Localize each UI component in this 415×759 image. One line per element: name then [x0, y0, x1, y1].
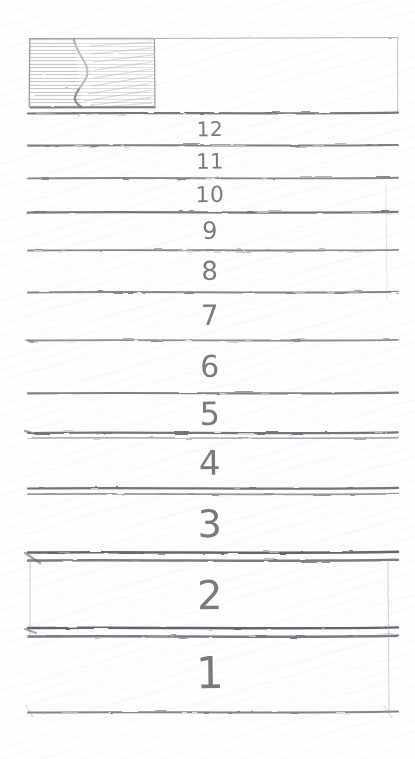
row-number-label[interactable]: 6 [200, 351, 220, 381]
row-number-label[interactable]: 11 [196, 151, 224, 172]
row-number-label[interactable]: 12 [197, 119, 224, 139]
row-number-label[interactable]: 5 [199, 398, 220, 430]
header-thumbnail[interactable] [29, 38, 155, 108]
row-number-label[interactable]: 8 [201, 258, 218, 284]
row-number-label[interactable]: 7 [201, 302, 220, 330]
row-number-label[interactable]: 2 [197, 575, 223, 615]
row-number-label[interactable]: 10 [195, 184, 224, 206]
header-field[interactable] [155, 38, 398, 108]
row-number-label[interactable]: 1 [196, 651, 225, 695]
row-number-label[interactable]: 4 [199, 446, 221, 480]
row-number-label[interactable]: 3 [197, 505, 222, 543]
row-number-label[interactable]: 9 [202, 219, 218, 243]
sketch-canvas: 121110987654321 [0, 0, 415, 759]
